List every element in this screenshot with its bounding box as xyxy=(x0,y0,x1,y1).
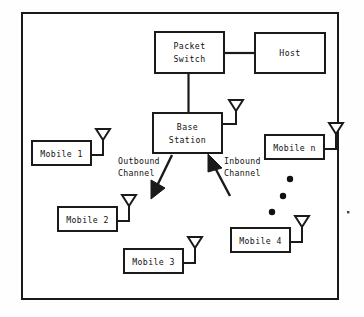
mobile-1-label: Mobile 1 xyxy=(40,149,83,159)
mobile-2-label: Mobile 2 xyxy=(66,215,109,225)
mobile-4-label: Mobile 4 xyxy=(239,236,282,246)
inbound-channel-label-line1: Inbound xyxy=(224,156,261,166)
ellipsis-dot xyxy=(269,209,275,215)
base-station-box xyxy=(153,113,222,153)
ellipsis-dot xyxy=(287,176,293,182)
node-packet-switch[interactable]: Packet Switch xyxy=(155,32,224,73)
mobile-3-label: Mobile 3 xyxy=(132,257,175,267)
host-label-line1: Host xyxy=(279,48,300,58)
base-station-label-line1: Base xyxy=(177,122,198,132)
packet-switch-label-line2: Switch xyxy=(174,54,206,64)
ellipsis-dot xyxy=(280,193,286,199)
outbound-channel-label-line2: Channel xyxy=(118,168,155,178)
mobile-n-label: Mobile n xyxy=(273,143,316,153)
node-host[interactable]: Host xyxy=(255,33,325,73)
base-station-label-line2: Station xyxy=(169,135,206,145)
packet-switch-label-line1: Packet xyxy=(174,41,206,51)
scan-speck xyxy=(347,211,349,213)
inbound-channel-label-line2: Channel xyxy=(224,168,261,178)
packet-switch-box xyxy=(155,32,224,73)
network-diagram: Packet Switch Host Base Station Mobile 1… xyxy=(0,0,364,317)
outbound-channel-label-line1: Outbound xyxy=(118,156,160,166)
diagram-canvas: Packet Switch Host Base Station Mobile 1… xyxy=(0,0,364,317)
